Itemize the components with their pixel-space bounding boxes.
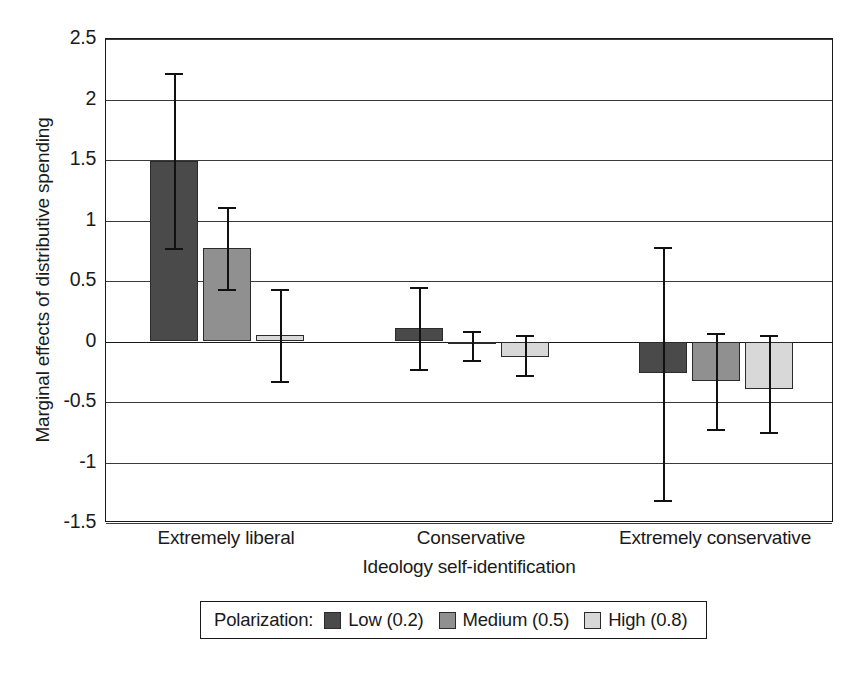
gridline (106, 39, 832, 40)
error-bar-cap-upper (165, 73, 183, 75)
legend-entry: High (0.8) (584, 609, 687, 631)
legend-title: Polarization: (214, 609, 313, 631)
legend-swatch (324, 612, 341, 629)
error-bar-cap-upper (654, 247, 672, 249)
error-bar (525, 335, 527, 375)
gridline (106, 100, 832, 101)
error-bar-cap-upper (271, 289, 289, 291)
legend-entry: Medium (0.5) (439, 609, 570, 631)
y-tick-label: -1 (44, 452, 96, 472)
error-bar (419, 287, 421, 369)
error-bar-cap-lower (165, 248, 183, 250)
gridline (106, 160, 832, 161)
error-bar-cap-upper (516, 335, 534, 337)
y-tick-label: 2 (44, 89, 96, 109)
y-tick-label: 1.5 (44, 149, 96, 169)
error-bar (663, 247, 665, 500)
legend-entry: Low (0.2) (324, 609, 423, 631)
error-bar (174, 73, 176, 248)
error-bar-cap-upper (707, 333, 725, 335)
error-bar (227, 207, 229, 289)
legend-label: Low (0.2) (348, 609, 423, 631)
y-tick-label: 2.5 (44, 28, 96, 48)
x-tick-label: Conservative (417, 527, 525, 549)
y-axis-tick-labels: 2.521.510.50-0.5-1-1.5 (38, 0, 96, 674)
error-bar-cap-lower (707, 429, 725, 431)
plot-area (105, 38, 833, 522)
error-bar-cap-lower (218, 289, 236, 291)
x-tick-label: Extremely liberal (157, 527, 294, 549)
error-bar-cap-lower (463, 360, 481, 362)
error-bar-cap-lower (410, 369, 428, 371)
error-bar-cap-upper (463, 331, 481, 333)
gridline (106, 523, 832, 524)
error-bar (769, 335, 771, 432)
error-bar-cap-upper (760, 335, 778, 337)
legend-swatch (584, 612, 601, 629)
error-bar-cap-lower (516, 375, 534, 377)
y-tick-label: 1 (44, 210, 96, 230)
legend-swatch (439, 612, 456, 629)
gridline (106, 463, 832, 464)
gridline (106, 221, 832, 222)
error-bar-cap-lower (271, 381, 289, 383)
error-bar-cap-upper (410, 287, 428, 289)
y-tick-label: 0 (44, 331, 96, 351)
y-tick-label: -0.5 (44, 391, 96, 411)
legend-label: High (0.8) (608, 609, 687, 631)
chart-legend: Polarization: Low (0.2)Medium (0.5)High … (200, 601, 707, 639)
legend-label: Medium (0.5) (463, 609, 570, 631)
error-bar-cap-lower (654, 500, 672, 502)
gridline (106, 402, 832, 403)
bar-chart-figure: Marginal effects of distributive spendin… (0, 0, 856, 674)
error-bar (280, 289, 282, 381)
x-axis-title: Ideology self-identification (105, 556, 833, 578)
error-bar (472, 331, 474, 360)
y-tick-label: 0.5 (44, 270, 96, 290)
y-tick-label: -1.5 (44, 512, 96, 532)
x-tick-label: Extremely conservative (619, 527, 811, 549)
error-bar-cap-lower (760, 432, 778, 434)
error-bar (716, 333, 718, 429)
error-bar-cap-upper (218, 207, 236, 209)
x-axis-tick-labels: Extremely liberalConservativeExtremely c… (105, 527, 833, 557)
